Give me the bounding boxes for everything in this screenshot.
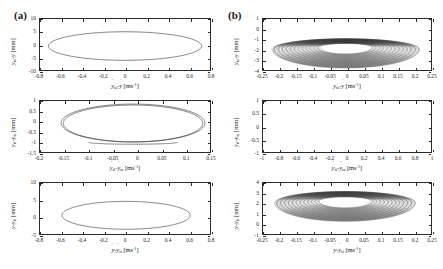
y-tick-label: 5	[19, 28, 36, 34]
y-tick	[263, 101, 266, 102]
plot-b1	[262, 18, 432, 71]
x-tick-label: 0	[346, 73, 349, 79]
plot-b1-xlabel: yta-y [ms-1]	[333, 82, 361, 90]
x-tick-label: 0.2	[143, 73, 150, 79]
x-tick-label: -0.8	[35, 237, 44, 243]
x-tick-label: 0.6	[395, 155, 402, 161]
y-tick-label: -1	[242, 232, 259, 238]
x-tick-label: 0.25	[427, 73, 436, 79]
x-tick-label: 0.8	[412, 155, 419, 161]
plot-a2-ylabel: ytf-yta [mm]	[9, 118, 17, 147]
x-tick	[314, 150, 315, 153]
plot-a1	[39, 18, 211, 71]
x-tick	[416, 101, 417, 104]
x-tick	[365, 101, 366, 104]
x-tick-label: -0.4	[309, 155, 318, 161]
y-tick-label: 0.5	[242, 110, 259, 116]
x-tick-label: -0.15	[58, 155, 69, 161]
y-tick	[263, 141, 266, 142]
x-tick	[212, 19, 213, 22]
x-tick-label: 0.2	[361, 155, 368, 161]
y-tick-label: 0	[19, 42, 36, 48]
y-tick-label: -1	[242, 150, 259, 156]
plot-a2-frame	[39, 100, 211, 153]
x-tick	[212, 101, 213, 104]
y-tick-label: -4	[242, 68, 259, 74]
orbit-curve	[40, 183, 210, 234]
x-tick	[212, 183, 213, 186]
y-tick-label: 0	[242, 26, 259, 32]
x-tick-label: -0.8	[35, 73, 44, 79]
x-tick	[433, 19, 434, 22]
x-tick-label: -0.05	[324, 237, 335, 243]
x-tick-label: 0	[124, 73, 127, 79]
x-tick	[433, 183, 434, 186]
y-tick-label: -1	[19, 139, 36, 145]
x-tick-label: 0.1	[183, 155, 190, 161]
y-tick-label: 0	[19, 214, 36, 220]
orbit-curve	[263, 183, 431, 234]
x-tick-label: 0.15	[393, 237, 402, 243]
plot-a1-ylabel: yta-y [mm]	[9, 38, 17, 65]
plot-b3-xlabel: y-ytf [ms-1]	[333, 246, 360, 254]
x-tick-label: 0.4	[165, 237, 172, 243]
x-tick	[263, 150, 264, 153]
x-tick	[280, 101, 281, 104]
plot-a3-frame	[39, 182, 211, 235]
plot-a1-xlabel: yta-y [ms-1]	[111, 82, 139, 90]
x-tick-label: 0	[346, 237, 349, 243]
plot-b1-ylabel: yta-y [mm]	[232, 38, 240, 65]
x-tick	[433, 232, 434, 235]
orbit-curve	[40, 19, 210, 70]
x-tick-label: -1	[260, 155, 265, 161]
x-tick-label: -0.4	[78, 73, 87, 79]
plot-a3-ylabel: y-ytf [mm]	[9, 203, 17, 229]
plot-a2	[39, 100, 211, 153]
x-tick	[212, 232, 213, 235]
figure-phase-portraits: m n o (a) (b) yta-y [mm] yta-y [ms-1] yt…	[0, 0, 443, 269]
x-tick-label: -0.15	[290, 237, 301, 243]
x-tick-label: -0.6	[56, 73, 65, 79]
y-tick	[429, 128, 432, 129]
y-tick-label: 10	[19, 179, 36, 185]
x-tick-label: 0.05	[359, 237, 368, 243]
plot-b3-frame	[262, 182, 432, 235]
clipped-header-text: m n o	[0, 0, 443, 7]
x-tick-label: 0.8	[208, 73, 215, 79]
x-tick-label: 0.25	[427, 237, 436, 243]
x-tick-label: 1	[431, 155, 434, 161]
x-tick-label: 0.2	[143, 237, 150, 243]
x-tick-label: -0.2	[326, 155, 335, 161]
y-tick-label: 5	[19, 197, 36, 203]
plot-a1-frame	[39, 18, 211, 71]
y-tick-label: 1	[242, 97, 259, 103]
x-tick-label: 0.2	[412, 237, 419, 243]
y-tick-label: -2	[242, 47, 259, 53]
y-tick-label: 10	[19, 15, 36, 21]
x-tick	[348, 150, 349, 153]
x-tick-label: -0.2	[99, 237, 108, 243]
y-tick-label: -3	[242, 57, 259, 63]
orbit-curve	[263, 19, 431, 70]
x-tick-label: -0.15	[290, 73, 301, 79]
x-tick-label: 0.1	[378, 73, 385, 79]
x-tick	[416, 150, 417, 153]
y-tick-label: 1	[19, 97, 36, 103]
x-tick	[433, 68, 434, 71]
x-tick-label: 0.15	[393, 73, 402, 79]
x-tick-label: -0.2	[275, 73, 284, 79]
x-tick	[212, 150, 213, 153]
plot-a2-xlabel: ytf-yta [ms-1]	[110, 164, 140, 172]
x-tick-label: 0.4	[165, 73, 172, 79]
x-tick-label: -0.6	[56, 237, 65, 243]
plot-b3-ylabel: y-ytf [mm]	[232, 203, 240, 229]
x-tick	[331, 150, 332, 153]
plot-b2	[262, 100, 432, 153]
x-tick-label: 0.15	[206, 155, 215, 161]
y-tick-label: -0.5	[242, 137, 259, 143]
x-tick	[280, 150, 281, 153]
x-tick-label: -0.1	[84, 155, 93, 161]
x-tick-label: -0.2	[99, 73, 108, 79]
y-tick-label: 1	[242, 211, 259, 217]
y-tick-label: 2	[242, 200, 259, 206]
